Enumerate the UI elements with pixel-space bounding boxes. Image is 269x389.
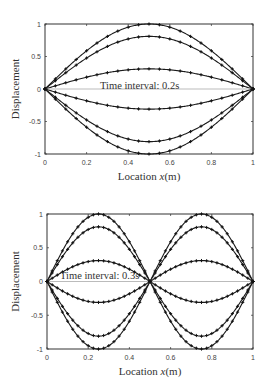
y-axis-label: Displacement bbox=[9, 251, 21, 311]
x-tick-label: 1 bbox=[251, 354, 255, 361]
x-tick-label: 0 bbox=[45, 354, 49, 361]
y-tick-label: 0.5 bbox=[33, 244, 43, 251]
x-tick-label: 0.4 bbox=[125, 354, 135, 361]
y-tick-label: -0.5 bbox=[29, 118, 41, 125]
chart-mode-2: 00.20.40.60.81-1-0.500.51Time interval: … bbox=[0, 195, 269, 389]
y-tick-label: 0.5 bbox=[31, 53, 41, 60]
x-tick-label: 0 bbox=[43, 159, 47, 166]
y-tick-label: -0.5 bbox=[31, 312, 43, 319]
chart-mode-1: 00.20.40.60.81-1-0.500.51Time interval: … bbox=[0, 0, 269, 195]
x-axis-label: Location x(m) bbox=[118, 170, 181, 183]
x-tick-label: 0.6 bbox=[166, 354, 176, 361]
x-tick-label: 0.2 bbox=[82, 159, 92, 166]
y-tick-label: 1 bbox=[37, 21, 41, 28]
time-interval-annotation: Time interval: 0.3s bbox=[60, 270, 139, 281]
x-tick-label: 1 bbox=[251, 159, 255, 166]
x-tick-label: 0.8 bbox=[207, 354, 217, 361]
x-axis-label: Location x(m) bbox=[119, 365, 182, 378]
y-tick-label: -1 bbox=[35, 151, 41, 158]
time-interval-annotation: Time interval: 0.2s bbox=[100, 80, 179, 91]
x-tick-label: 0.4 bbox=[123, 159, 133, 166]
y-axis-label: Displacement bbox=[9, 59, 21, 119]
y-tick-label: -1 bbox=[37, 346, 43, 353]
y-tick-label: 0 bbox=[37, 86, 41, 93]
x-tick-label: 0.2 bbox=[83, 354, 93, 361]
x-tick-label: 0.6 bbox=[165, 159, 175, 166]
y-tick-label: 0 bbox=[39, 278, 43, 285]
x-tick-label: 0.8 bbox=[207, 159, 217, 166]
y-tick-label: 1 bbox=[39, 211, 43, 218]
